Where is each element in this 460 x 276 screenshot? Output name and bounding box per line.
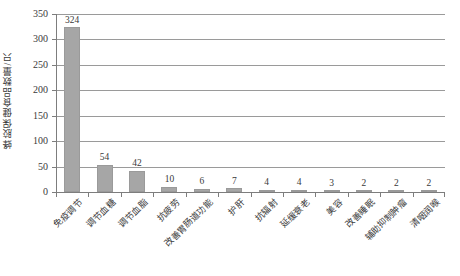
bar-slot[interactable]: 10 — [153, 14, 185, 192]
bar[interactable] — [161, 187, 177, 192]
x-tickmark — [88, 193, 89, 197]
bar-value-label: 10 — [165, 175, 175, 185]
x-tickmark — [251, 193, 252, 197]
bar-slot[interactable]: 2 — [380, 14, 412, 192]
bar[interactable] — [421, 190, 437, 192]
x-category-label: 调节血脂 — [118, 198, 150, 230]
bar[interactable] — [226, 188, 242, 192]
y-tick-label: 350 — [33, 9, 48, 19]
x-category-label: 美容 — [325, 198, 344, 217]
x-tickmark — [153, 193, 154, 197]
bar-value-label: 4 — [297, 178, 302, 188]
bar-value-label: 2 — [426, 179, 431, 189]
y-tick-label: 200 — [33, 85, 48, 95]
bar-value-label: 7 — [232, 177, 237, 187]
y-tick-label: 150 — [33, 111, 48, 121]
bar[interactable] — [97, 165, 113, 192]
bar-slot[interactable]: 3 — [315, 14, 347, 192]
bar[interactable] — [129, 171, 145, 192]
bar-slot[interactable]: 6 — [186, 14, 218, 192]
bar[interactable] — [324, 190, 340, 192]
bar-slot[interactable]: 4 — [283, 14, 315, 192]
y-tick-label: 300 — [33, 34, 48, 44]
x-category-label: 调节血糖 — [85, 198, 117, 230]
bar[interactable] — [291, 190, 307, 192]
x-tickmark — [56, 193, 57, 197]
x-category-label: 护肝 — [228, 198, 247, 217]
bar-chart: 蜂胶保健食品数量/只 050100150200250300350 3245442… — [0, 0, 460, 276]
bar-slot[interactable]: 4 — [251, 14, 283, 192]
bar[interactable] — [194, 189, 210, 192]
y-tick-label: 100 — [33, 136, 48, 146]
x-tickmark — [186, 193, 187, 197]
bar-value-label: 2 — [362, 179, 367, 189]
y-tick-label: 250 — [33, 60, 48, 70]
x-category-label: 免疫调节 — [53, 198, 85, 230]
x-category-label: 改善睡眠 — [344, 198, 376, 230]
bar-value-label: 4 — [264, 178, 269, 188]
x-tickmark — [121, 193, 122, 197]
x-axis-category-labels: 免疫调节调节血糖调节血脂抗疲劳改善胃肠道功能护肝抗辐射延缓衰老美容改善睡眠辅助抑… — [56, 198, 445, 276]
x-category-label: 延缓衰老 — [280, 198, 312, 230]
x-category-label: 抗辐射 — [254, 198, 279, 223]
y-axis-tick-labels: 050100150200250300350 — [16, 14, 52, 192]
y-axis-title: 蜂胶保健食品数量/只 — [0, 0, 16, 200]
x-category-label: 清咽润喉 — [409, 198, 441, 230]
bar[interactable] — [64, 27, 80, 192]
y-tick-label: 50 — [38, 162, 48, 172]
bar[interactable] — [259, 190, 275, 192]
bar-slot[interactable]: 54 — [88, 14, 120, 192]
bar[interactable] — [388, 190, 404, 192]
bar[interactable] — [356, 190, 372, 192]
bar-slot[interactable]: 2 — [413, 14, 445, 192]
x-tickmark — [413, 193, 414, 197]
y-axis-title-text: 蜂胶保健食品数量/只 — [1, 52, 15, 149]
bar-value-label: 54 — [100, 153, 110, 163]
x-tickmark — [315, 193, 316, 197]
bar-slot[interactable]: 42 — [121, 14, 153, 192]
bar-value-label: 42 — [132, 159, 142, 169]
x-tickmark — [283, 193, 284, 197]
bars-layer: 32454421067443222 — [56, 14, 445, 192]
y-tick-label: 0 — [43, 187, 48, 197]
x-tickmark — [348, 193, 349, 197]
x-tickmark — [444, 193, 445, 197]
x-category-label: 抗疲劳 — [156, 198, 181, 223]
bar-value-label: 324 — [65, 16, 79, 26]
bar-slot[interactable]: 7 — [218, 14, 250, 192]
bar-value-label: 6 — [199, 177, 204, 187]
bar-value-label: 3 — [329, 179, 334, 189]
x-tickmark — [218, 193, 219, 197]
bar-slot[interactable]: 324 — [56, 14, 88, 192]
x-tickmark — [380, 193, 381, 197]
bar-value-label: 2 — [394, 179, 399, 189]
bar-slot[interactable]: 2 — [348, 14, 380, 192]
